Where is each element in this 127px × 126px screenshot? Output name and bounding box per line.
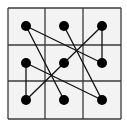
dot-top-right bbox=[97, 21, 107, 31]
dot-top-center bbox=[59, 21, 69, 31]
dot-middle-right bbox=[97, 58, 107, 68]
dot-middle-center bbox=[59, 58, 69, 68]
dot-bottom-right bbox=[97, 95, 107, 105]
dot-top-left bbox=[21, 21, 31, 31]
dot-bottom-center bbox=[59, 95, 69, 105]
dot-bottom-left bbox=[21, 95, 31, 105]
dot-middle-left bbox=[21, 58, 31, 68]
dot-grid-diagram bbox=[0, 0, 127, 126]
